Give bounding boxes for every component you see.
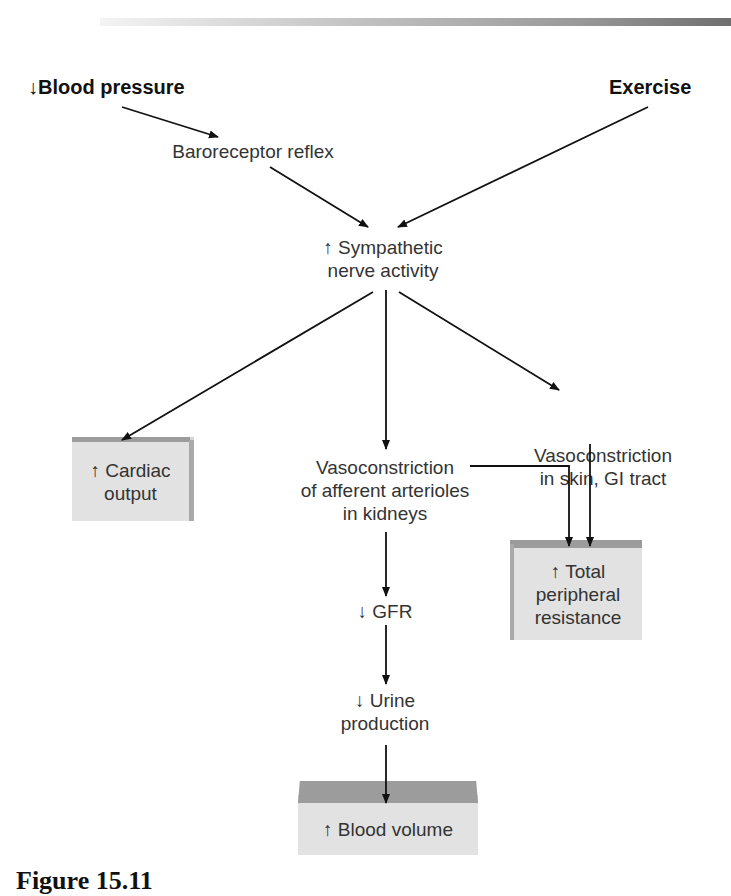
arrow-baroreceptor-to-sympathetic <box>270 167 368 227</box>
arrow-sympathetic-to-vaso-skin <box>399 292 559 390</box>
arrow-bp-to-baroreceptor <box>122 107 218 137</box>
arrow-sympathetic-to-cardiac <box>122 292 373 440</box>
arrow-vaso-kidney-to-tpr <box>470 466 569 546</box>
figure-caption: Figure 15.11 <box>16 866 153 896</box>
arrow-exercise-to-sympathetic <box>398 107 648 227</box>
